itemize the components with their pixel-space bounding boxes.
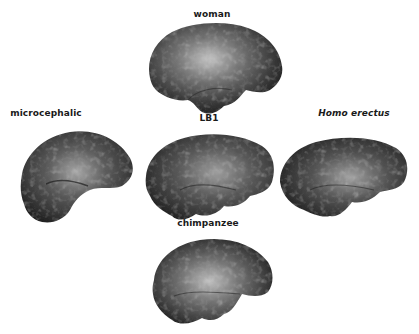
specimen-label-microcephalic: microcephalic bbox=[10, 108, 82, 118]
endocast-homo-erectus bbox=[276, 126, 416, 224]
endocast-lb1 bbox=[140, 128, 278, 224]
endocast-chimpanzee bbox=[140, 234, 278, 330]
specimen-label-woman: woman bbox=[194, 9, 231, 19]
endocast-microcephalic bbox=[8, 124, 136, 228]
endocast-woman bbox=[140, 20, 286, 118]
specimen-label-homo-erectus: Homo erectus bbox=[318, 108, 390, 118]
